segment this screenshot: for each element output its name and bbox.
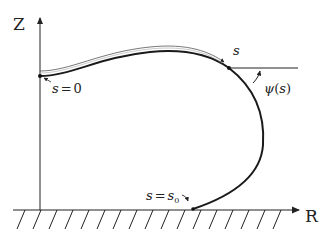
arc-length-shadow xyxy=(40,48,222,73)
drop-profile-curve xyxy=(40,51,263,209)
arc-length-arrow xyxy=(40,46,224,71)
z-axis-label: Z xyxy=(13,14,25,34)
contact-point-marker xyxy=(191,207,195,211)
start-point-marker xyxy=(38,74,42,78)
drop-profile-diagram: Z R xyxy=(0,0,323,246)
r-axis-label: R xyxy=(305,206,319,226)
angle-psi-arc-icon xyxy=(253,71,260,83)
contact-point-pointer-icon xyxy=(182,195,188,201)
start-point-label: s=0 xyxy=(52,81,82,96)
start-point-pointer-icon xyxy=(44,78,51,82)
tangent-angle-label: ψ(s) xyxy=(264,81,291,96)
arc-length-label: s xyxy=(233,43,240,58)
ground-hatching xyxy=(17,210,281,229)
contact-point-label: s=s0 xyxy=(146,188,179,205)
